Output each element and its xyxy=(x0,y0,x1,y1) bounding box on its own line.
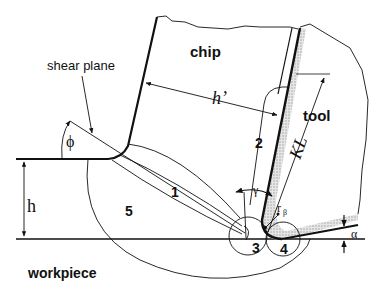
zone-2-label: 2 xyxy=(255,135,263,151)
kl-label: KL xyxy=(285,134,312,162)
zone-5-label: 5 xyxy=(125,203,133,219)
h-label: h xyxy=(27,196,36,216)
tool-label: tool xyxy=(303,107,331,124)
workpiece-label: workpiece xyxy=(27,265,97,281)
alpha-label: α xyxy=(351,227,358,241)
shear-plane-label: shear plane xyxy=(47,58,115,73)
r-beta-subscript: β xyxy=(283,208,287,217)
shear-plane-pointer xyxy=(82,76,92,133)
phi-label: ϕ xyxy=(66,133,74,151)
zone-1-label: 1 xyxy=(171,184,179,200)
zone-4-label: 4 xyxy=(280,241,288,257)
chip-top-edge xyxy=(157,16,298,29)
chip-label: chip xyxy=(190,43,221,60)
h-prime-label: h’ xyxy=(212,88,227,108)
gamma-label: γ xyxy=(252,183,259,197)
gamma-reference-line xyxy=(244,192,246,238)
r-beta-label: r xyxy=(277,201,281,215)
cutting-diagram: chip tool workpiece shear plane ϕ h h’ K… xyxy=(0,0,384,301)
workpiece-surface xyxy=(16,17,157,159)
zone-3-label: 3 xyxy=(252,240,260,256)
zone-1-mid xyxy=(120,155,242,226)
shear-plane-line xyxy=(70,121,245,233)
